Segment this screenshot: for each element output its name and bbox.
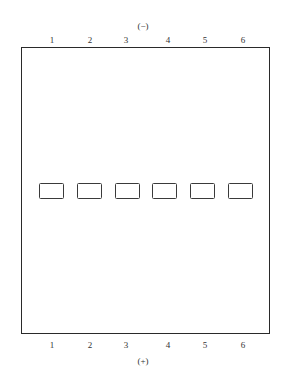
well-1	[39, 183, 64, 199]
well-5	[190, 183, 215, 199]
positive-electrode-label: (+)	[128, 356, 158, 366]
lane-label-bottom-5: 5	[195, 340, 215, 350]
lane-label-top-1: 1	[42, 35, 62, 45]
lane-label-top-2: 2	[80, 35, 100, 45]
lane-label-bottom-6: 6	[233, 340, 253, 350]
lane-label-bottom-3: 3	[116, 340, 136, 350]
lane-label-top-6: 6	[233, 35, 253, 45]
lane-label-bottom-2: 2	[80, 340, 100, 350]
lane-label-bottom-1: 1	[42, 340, 62, 350]
negative-electrode-label: (−)	[128, 21, 158, 31]
lane-label-bottom-4: 4	[158, 340, 178, 350]
lane-label-top-4: 4	[158, 35, 178, 45]
well-3	[115, 183, 140, 199]
lane-label-top-3: 3	[116, 35, 136, 45]
well-2	[77, 183, 102, 199]
well-6	[228, 183, 253, 199]
well-4	[152, 183, 177, 199]
lane-label-top-5: 5	[195, 35, 215, 45]
